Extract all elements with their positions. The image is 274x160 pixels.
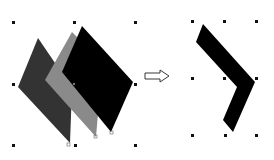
node-handle[interactable] — [67, 143, 70, 146]
diagram-canvas — [0, 0, 274, 160]
center-point-icon — [73, 83, 75, 85]
right-arrow-icon — [145, 70, 169, 82]
right-shape-group[interactable] — [191, 20, 258, 137]
left-shape-group[interactable] — [12, 21, 137, 147]
node-handle[interactable] — [110, 131, 113, 134]
